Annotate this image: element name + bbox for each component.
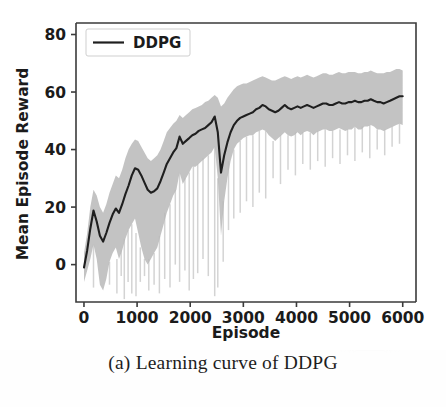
x-tick-label: 2000 bbox=[169, 309, 212, 327]
y-tick-label: 0 bbox=[55, 256, 66, 274]
y-tick-label: 40 bbox=[44, 141, 66, 159]
y-tick-label: 20 bbox=[44, 199, 66, 217]
figure-panel: 0100020003000400050006000 020406080 Epis… bbox=[0, 0, 446, 407]
y-tick-label: 60 bbox=[44, 84, 66, 102]
y-axis-title: Mean Episode Reward bbox=[14, 68, 32, 261]
legend[interactable]: DDPG bbox=[86, 29, 190, 56]
y-tick-label: 80 bbox=[44, 26, 66, 44]
x-tick-label: 5000 bbox=[328, 309, 371, 327]
x-tick-label: 1000 bbox=[116, 309, 159, 327]
x-axis-title: Episode bbox=[212, 324, 280, 342]
x-tick-label: 4000 bbox=[275, 309, 318, 327]
figure-caption: (a) Learning curve of DDPG bbox=[0, 352, 446, 374]
learning-curve-chart: 0100020003000400050006000 020406080 Epis… bbox=[0, 0, 446, 350]
legend-label-ddpg: DDPG bbox=[133, 34, 181, 52]
chart-svg: 0100020003000400050006000 020406080 Epis… bbox=[0, 0, 446, 350]
x-tick-label: 0 bbox=[79, 309, 90, 327]
x-tick-label: 6000 bbox=[381, 309, 424, 327]
